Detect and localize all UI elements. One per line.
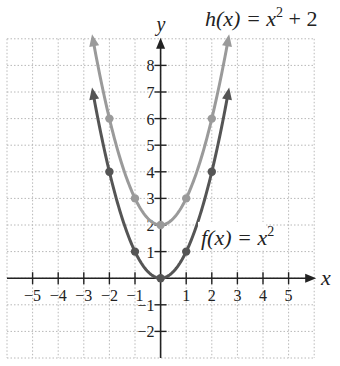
x-axis-label: x xyxy=(320,265,331,290)
f-series-label: f(x) = x2 xyxy=(198,222,274,250)
data-point xyxy=(156,274,164,282)
x-tick-label: −4 xyxy=(50,287,67,304)
x-tick-label: 1 xyxy=(182,287,190,304)
x-tick-label: 3 xyxy=(233,287,241,304)
chart: −5−4−3−2−112345−2−112345678 y x h(x) = x… xyxy=(0,0,340,366)
x-tick-label: 2 xyxy=(208,287,216,304)
data-point xyxy=(105,168,113,176)
y-tick-label: 7 xyxy=(147,84,155,101)
x-tick-label: 5 xyxy=(285,287,293,304)
h-series-label: h(x) = x2 + 2 xyxy=(205,5,317,31)
svg-text:f(x) = x2: f(x) = x2 xyxy=(201,224,274,250)
f-label-func: f(x) = x xyxy=(201,225,267,250)
svg-text:h(x) = x2 + 2: h(x) = x2 + 2 xyxy=(205,5,317,31)
y-tick-label: 3 xyxy=(147,190,155,207)
x-tick-label: −5 xyxy=(24,287,41,304)
data-point xyxy=(208,114,216,122)
curve-arrow-icon xyxy=(89,34,99,47)
y-axis-label: y xyxy=(155,13,166,36)
data-point xyxy=(156,221,164,229)
y-tick-label: 6 xyxy=(147,111,155,128)
data-point xyxy=(208,168,216,176)
y-tick-label: 4 xyxy=(147,164,155,181)
y-tick-label: 8 xyxy=(147,57,155,74)
h-label-func: h(x) = x xyxy=(205,6,276,31)
x-tick-label: 4 xyxy=(259,287,267,304)
y-axis-arrow-icon xyxy=(156,38,165,49)
data-point xyxy=(182,194,190,202)
labels: y x h(x) = x2 + 2 f(x) = x2 xyxy=(155,5,332,290)
x-tick-label: −3 xyxy=(75,287,92,304)
f-label-exp: 2 xyxy=(267,224,274,239)
y-tick-label: 5 xyxy=(147,137,155,154)
curve-arrow-icon xyxy=(222,87,232,100)
data-point xyxy=(182,247,190,255)
y-tick-label: −1 xyxy=(138,297,155,314)
h-label-exp: 2 xyxy=(276,5,283,20)
x-tick-label: −2 xyxy=(101,287,118,304)
data-point xyxy=(105,114,113,122)
curve-arrow-icon xyxy=(222,34,232,47)
y-tick-label: 1 xyxy=(147,244,155,261)
data-point xyxy=(131,247,139,255)
y-tick-label: −2 xyxy=(138,323,155,340)
curve-arrow-icon xyxy=(89,87,99,100)
data-point xyxy=(131,194,139,202)
h-label-tail: + 2 xyxy=(283,6,317,31)
